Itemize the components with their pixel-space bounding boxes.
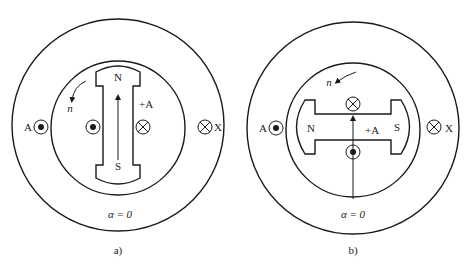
rotation-arrow-icon [337, 72, 356, 82]
axis-label: +A [139, 99, 153, 110]
coil-start-label: A [24, 122, 32, 133]
synchronous-machine-diagram: N S +A n A X α = 0 a) N S +A n A X α = 0… [0, 0, 470, 269]
angle-label: α = 0 [108, 209, 132, 220]
conductor-a-top-cross [346, 97, 360, 111]
conductor-a-outer-dot [269, 121, 283, 135]
diagram-canvas [0, 0, 470, 269]
conductor-a-inner-dot [86, 120, 100, 134]
angle-label: α = 0 [341, 209, 365, 220]
rotation-arrow-icon [72, 81, 86, 100]
north-pole-label: N [114, 72, 122, 83]
south-pole-label: S [394, 122, 400, 133]
south-pole-label: S [115, 161, 121, 172]
conductor-x-outer-cross [198, 120, 212, 134]
figure-caption: a) [114, 245, 123, 256]
conductor-a-outer-dot [34, 120, 48, 134]
figure-caption: b) [348, 245, 357, 256]
north-pole-label: N [307, 123, 315, 134]
axis-label: +A [365, 125, 379, 136]
conductor-a-inner-cross [136, 120, 150, 134]
rotation-label: n [67, 103, 73, 114]
coil-start-label: A [259, 123, 267, 134]
rotation-label: n [326, 77, 332, 88]
figure-b [247, 22, 459, 234]
coil-end-label: X [445, 123, 453, 134]
conductor-x-outer-cross [427, 120, 441, 134]
figure-a [12, 19, 224, 231]
coil-end-label: X [214, 122, 222, 133]
